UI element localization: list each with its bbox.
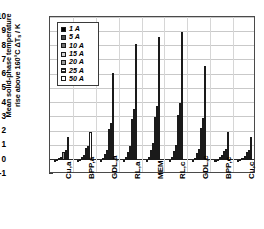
gridline	[50, 131, 254, 132]
y-axis-tick-label: 9	[0, 26, 6, 35]
y-axis-tick-label: 10	[0, 12, 6, 21]
y-axis-title: Mean solid-phase temperature rise above …	[4, 0, 25, 147]
category-separator	[210, 17, 211, 172]
x-axis-tick-label: BPP,a	[87, 157, 96, 179]
chart-figure: Mean solid-phase temperature rise above …	[0, 0, 264, 229]
bar	[146, 160, 148, 162]
x-axis-tick-label: GDL,a	[110, 155, 119, 179]
legend-item: 50 A	[61, 75, 96, 83]
y-axis-tick-label: 4	[0, 97, 6, 106]
legend-swatch-icon	[61, 68, 66, 73]
bar	[250, 137, 252, 160]
category-separator	[142, 17, 143, 172]
y-axis-tick-label: 0	[0, 154, 6, 163]
legend-swatch-icon	[61, 27, 66, 32]
y-axis-tick-label: 5	[0, 83, 6, 92]
bar	[192, 160, 194, 162]
bar	[112, 73, 114, 160]
category-separator	[164, 17, 165, 172]
y-axis-tick-label: 2	[0, 126, 6, 135]
y-axis-tick-mark	[49, 173, 53, 174]
bar	[67, 137, 69, 160]
bar	[204, 66, 206, 160]
x-axis-tick-label: RL,a	[133, 162, 142, 179]
y-axis-tick-label: 6	[0, 69, 6, 78]
y-axis-tick-label: 3	[0, 111, 6, 120]
bar	[227, 132, 229, 159]
legend-swatch-icon	[61, 60, 66, 65]
y-axis-tick-label: -1	[0, 169, 6, 178]
x-axis-tick-label: RL,c	[178, 162, 187, 179]
bar	[135, 44, 137, 160]
y-axis-title-line2: rise above 160°C ΔTs / K	[13, 0, 24, 147]
category-separator	[233, 17, 234, 172]
y-axis-tick-label: 1	[0, 140, 6, 149]
gridline	[50, 88, 254, 89]
gridline	[50, 17, 254, 18]
x-axis-tick-label: GDL,c	[201, 155, 210, 179]
legend-swatch-icon	[61, 76, 66, 81]
x-axis-tick-label: MEM	[156, 160, 165, 179]
bar	[158, 37, 160, 160]
bar	[123, 160, 125, 162]
y-axis-tick-label: 7	[0, 54, 6, 63]
chart-legend: 1 A5 A10 A15 A20 A25 A50 A	[57, 22, 99, 86]
legend-swatch-icon	[61, 35, 66, 40]
y-axis-title-subscript: s	[16, 35, 22, 38]
legend-item-label: 50 A	[69, 75, 84, 83]
legend-swatch-icon	[61, 52, 66, 57]
legend-swatch-icon	[61, 43, 66, 48]
category-separator	[119, 17, 120, 172]
x-axis-tick-label: Cu,c	[247, 162, 256, 179]
gridline	[50, 102, 254, 103]
bar	[100, 160, 102, 163]
bar	[89, 132, 91, 159]
y-axis-tick-label: 8	[0, 40, 6, 49]
bar	[181, 32, 183, 160]
gridline	[50, 116, 254, 117]
category-separator	[187, 17, 188, 172]
x-axis-tick-label: BPP,c	[224, 157, 233, 179]
bar	[169, 160, 171, 162]
x-axis-tick-label: Cu,a	[64, 162, 73, 179]
